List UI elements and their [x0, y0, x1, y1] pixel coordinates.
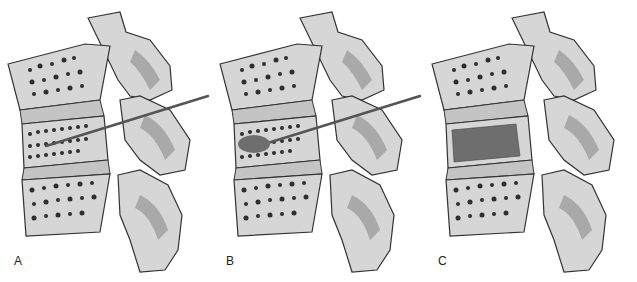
panel-a: A [0, 0, 212, 282]
vertebrae-illustration-c [424, 0, 636, 282]
panel-label-a: A [14, 254, 22, 268]
vertebrae-illustration-b [212, 0, 424, 282]
panel-label-c: C [438, 254, 447, 268]
vertebrae-illustration-a [0, 0, 212, 282]
panel-b: B [212, 0, 424, 282]
panel-c: C [424, 0, 636, 282]
panel-label-b: B [226, 254, 234, 268]
